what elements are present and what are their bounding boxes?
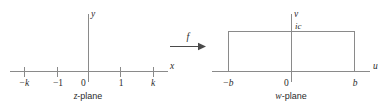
z-plane-ticklabel-minus-k: −k — [19, 79, 30, 89]
w-plane-v-axis-label: v — [294, 10, 298, 20]
mapping-arrow-group — [170, 43, 206, 50]
z-plane-x-axis-label: x — [170, 62, 174, 72]
z-plane-origin-label: 0 — [81, 79, 86, 89]
w-plane-height-label: ic — [295, 22, 302, 31]
z-plane-group — [10, 14, 168, 82]
w-plane-ticklabel-b: b — [353, 79, 358, 89]
mapping-function-label: f — [187, 32, 190, 42]
figure-vector-layer — [0, 0, 383, 109]
w-plane-caption-text: -plane — [282, 91, 307, 101]
z-plane-ticklabel-1: 1 — [119, 79, 124, 89]
z-plane-ticklabel-minus-1: −1 — [53, 79, 63, 89]
mapping-arrow-head — [198, 43, 206, 50]
z-plane-caption-text: -plane — [77, 91, 102, 101]
z-plane-caption: z-plane — [74, 92, 103, 102]
w-plane-caption: w-plane — [275, 92, 306, 102]
z-plane-ticklabel-k: k — [151, 79, 155, 89]
w-plane-origin-label: 0 — [284, 79, 289, 89]
z-plane-y-axis-label: y — [91, 10, 95, 20]
w-plane-group — [212, 14, 370, 82]
w-plane-ticklabel-minus-b: −b — [222, 79, 233, 89]
w-plane-u-axis-label: u — [373, 62, 378, 72]
conformal-mapping-figure: −k −1 0 1 k x y z-plane f −b 0 b u v ic … — [0, 0, 383, 109]
